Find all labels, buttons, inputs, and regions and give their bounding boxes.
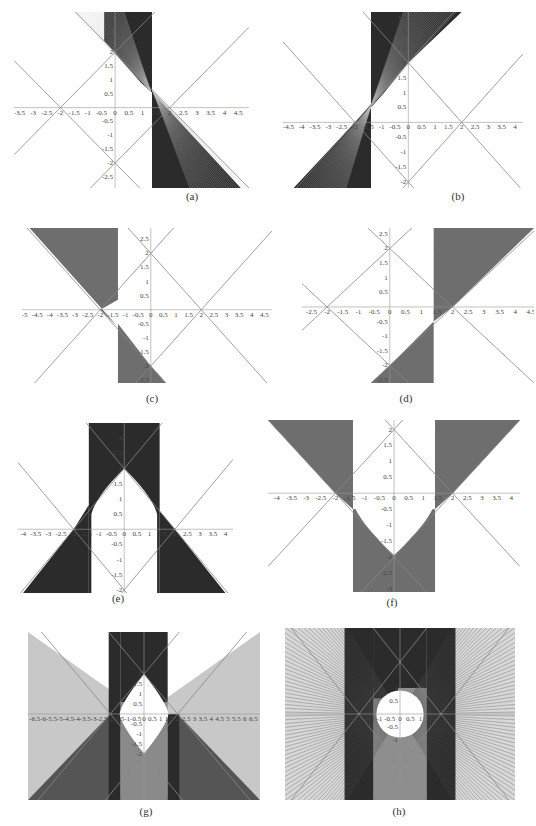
x-tick-label: -2 [97, 311, 103, 319]
y-tick-label: -1.5 [381, 537, 393, 545]
x-tick-label: 4 [250, 311, 254, 319]
y-tick-label: -2 [143, 362, 149, 370]
x-tick-label: 0.5 [417, 123, 426, 131]
y-tick-label: 1.5 [104, 62, 113, 70]
y-tick-label: -0.5 [111, 540, 123, 548]
x-tick-label: -1 [377, 715, 383, 723]
x-tick-label: 0 [392, 494, 396, 502]
x-tick-label: 1 [174, 311, 178, 319]
shaded-region [371, 12, 462, 107]
y-tick-label: 2 [119, 465, 123, 473]
x-tick-label: -4.5 [32, 311, 44, 319]
x-tick-label: 1.5 [184, 311, 193, 319]
y-tick-label: -1.5 [138, 348, 150, 356]
x-tick-label: 1.5 [432, 308, 441, 316]
panel-d: -2.5-2-1.5-1-0.500.511.522.533.544.5-2.5… [302, 228, 534, 383]
x-tick-label: -2.5 [82, 311, 94, 319]
x-tick-label: 0 [122, 530, 126, 538]
y-tick-label: 1.5 [140, 263, 149, 271]
y-tick-label: -0.5 [138, 320, 150, 328]
y-tick-label: 2 [145, 249, 149, 257]
x-tick-label: 1 [419, 308, 423, 316]
y-tick-label: 2.5 [140, 235, 149, 243]
x-tick-label: -0.5 [106, 530, 118, 538]
x-tick-label: 3.5 [235, 311, 244, 319]
x-tick-label: -4 [274, 494, 280, 502]
y-tick-label: 1 [139, 690, 143, 698]
y-tick-label: 0.5 [104, 90, 113, 98]
x-tick-label: 1 [148, 530, 152, 538]
y-tick-label: -1 [116, 556, 122, 564]
x-tick-label: 4.5 [260, 311, 269, 319]
x-tick-label: -2 [332, 494, 338, 502]
x-tick-label: -0.5 [133, 311, 145, 319]
y-tick-label: 2 [384, 244, 388, 252]
x-tick-label: 3 [482, 308, 486, 316]
y-tick-label: -1 [382, 332, 388, 340]
panel-b: -4.5-4-3.5-3-2.5-2-1.5-1-0.500.511.522.5… [283, 12, 523, 188]
x-tick-label: -5.5 [46, 715, 58, 723]
x-tick-label: -1.5 [81, 530, 93, 538]
caption-f: (f) [362, 596, 422, 608]
x-tick-label: -4 [20, 530, 26, 538]
y-tick-label: 2 [110, 48, 114, 56]
x-tick-label: 3 [225, 311, 229, 319]
y-tick-label: -1 [143, 334, 149, 342]
caption-h: (h) [369, 805, 429, 817]
y-tick-label: -1.5 [131, 740, 143, 748]
caption-c: (c) [122, 392, 182, 404]
y-tick-label: 3 [110, 20, 114, 28]
caption-a: (a) [162, 190, 222, 202]
x-tick-label: -4.5 [63, 715, 75, 723]
x-tick-label: -0.5 [369, 308, 381, 316]
y-tick-label: 1.5 [383, 441, 392, 449]
y-tick-label: -2 [107, 159, 113, 167]
panel-f: -4-3.5-3-2.5-2-1.5-1-0.500.511.522.533.5… [268, 420, 520, 592]
caption-b: (b) [428, 190, 488, 202]
x-tick-label: 4 [509, 494, 513, 502]
x-tick-label: 0 [142, 715, 146, 723]
x-tick-label: -3.5 [14, 109, 25, 117]
y-tick-label: 2 [389, 426, 393, 434]
x-tick-label: -1.5 [107, 311, 119, 319]
x-tick-label: 0.5 [401, 308, 410, 316]
y-tick-label: 1.5 [379, 259, 388, 267]
plot-d: -2.5-2-1.5-1-0.500.511.522.533.544.5-2.5… [302, 228, 534, 383]
x-tick-label: -1 [362, 494, 368, 502]
x-tick-label: 4.5 [234, 109, 243, 117]
x-tick-label: -2 [71, 530, 77, 538]
y-tick-label: 0.5 [379, 288, 388, 296]
x-tick-label: 1.5 [158, 530, 167, 538]
x-tick-label: 2 [168, 109, 172, 117]
x-tick-label: 0 [398, 715, 402, 723]
x-tick-label: 2.5 [463, 494, 472, 502]
x-tick-label: -3 [325, 123, 331, 131]
y-tick-label: 1.5 [398, 74, 407, 82]
x-tick-label: -5 [22, 311, 28, 319]
plot-b: -4.5-4-3.5-3-2.5-2-1.5-1-0.500.511.522.5… [283, 12, 523, 188]
x-tick-label: 5 [226, 715, 230, 723]
y-tick-label: -2.5 [102, 173, 114, 181]
x-tick-label: 3.5 [492, 494, 501, 502]
panel-g: -6.5-6-5.5-5-4.5-4-3.5-3-2.5-2-1.5-1-0.5… [28, 632, 260, 800]
x-tick-label: -2.5 [55, 530, 67, 538]
y-tick-label: -0.5 [395, 133, 407, 141]
x-tick-label: 1 [433, 123, 437, 131]
x-tick-label: 4 [223, 109, 227, 117]
y-tick-label: -2 [136, 750, 142, 758]
x-tick-label: -0.5 [374, 494, 386, 502]
y-tick-label: -2 [400, 178, 406, 186]
x-tick-label: -2.5 [315, 494, 327, 502]
y-tick-label: -2.5 [377, 376, 389, 383]
plot-c: -5-4.5-4-3.5-3-2.5-2-1.5-1-0.500.511.522… [22, 228, 272, 383]
x-tick-label: 0 [113, 109, 117, 117]
x-tick-label: -3.5 [309, 123, 321, 131]
x-tick-label: 3 [487, 123, 491, 131]
plot-a: -3.5-3-2.5-2-1.5-1-0.500.511.522.533.544… [14, 12, 249, 188]
x-tick-label: -3.5 [57, 311, 69, 319]
x-tick-label: -2 [352, 123, 358, 131]
plot-g: -6.5-6-5.5-5-4.5-4-3.5-3-2.5-2-1.5-1-0.5… [28, 632, 260, 800]
y-tick-label: -1.5 [102, 145, 114, 153]
x-tick-label: -1 [356, 308, 362, 316]
y-tick-label: 0.5 [133, 700, 142, 708]
